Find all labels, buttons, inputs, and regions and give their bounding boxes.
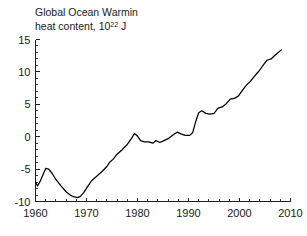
x-tick-label: 1960 [23, 207, 47, 219]
chart-title-line2-prefix: heat content, 10 [35, 20, 110, 32]
y-tick-label: -5 [21, 163, 31, 175]
chart-title-line2-exponent: 22 [110, 21, 118, 28]
ocean-heat-content-line-chart: Global Ocean Warmin heat content, 1022 J… [0, 0, 307, 236]
chart-container: Global Ocean Warmin heat content, 1022 J… [0, 0, 307, 236]
x-tick-label: 2000 [227, 207, 251, 219]
y-tick-label: 10 [18, 66, 30, 78]
chart-title-line1: Global Ocean Warmin [35, 6, 138, 18]
x-tick-label: 2010 [278, 207, 302, 219]
x-tick-label: 1970 [74, 207, 98, 219]
y-tick-label: 15 [18, 34, 30, 46]
y-tick-label: 5 [24, 98, 30, 110]
chart-title-line2-suffix: J [118, 20, 126, 32]
x-tick-label: 1980 [125, 207, 149, 219]
y-tick-label: 0 [24, 131, 30, 143]
x-tick-label: 1990 [176, 207, 200, 219]
